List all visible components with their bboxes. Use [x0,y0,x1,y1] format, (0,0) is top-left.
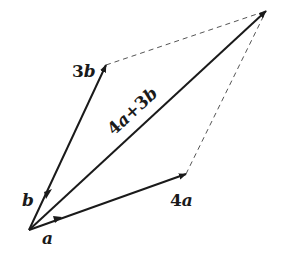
vector-4a [29,174,186,230]
label-b: b [22,190,34,210]
label-a: a [42,228,53,248]
label-sum: 4a+3b [103,83,161,139]
label-3b: 3b [72,61,96,81]
dashed-edge-top [106,11,266,65]
svg-text:4a+3b: 4a+3b [103,83,161,139]
dashed-edge-right [186,11,266,174]
label-4a: 4a [170,190,193,210]
vector-diagram: b a 3b 4a 4a+3b [0,0,287,258]
vector-sum [29,11,266,230]
vector-3b [29,65,106,230]
